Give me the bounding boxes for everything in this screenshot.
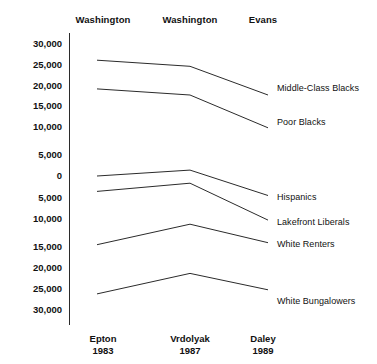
x-tick-daley-name: Daley (250, 333, 275, 344)
series-line-poor-blacks (97, 89, 268, 128)
series-label-white-renters: White Renters (277, 239, 335, 249)
series-lines-group (97, 60, 268, 294)
series-line-middle-class-blacks (97, 60, 268, 95)
x-tick-daley: Daley 1989 (250, 333, 275, 356)
series-label-lakefront-liberals: Lakefront Liberals (277, 217, 349, 227)
x-tick-vrdolyak-year: 1987 (170, 345, 210, 357)
plot-area (0, 0, 377, 364)
series-line-lakefront-liberals (97, 183, 268, 220)
x-tick-epton-year: 1983 (90, 345, 117, 357)
series-label-middle-class-blacks: Middle-Class Blacks (277, 83, 359, 93)
x-tick-vrdolyak: Vrdolyak 1987 (170, 333, 210, 356)
series-line-white-renters (97, 224, 268, 245)
series-line-white-bungalowers (97, 273, 268, 294)
series-label-hispanics: Hispanics (277, 192, 316, 202)
series-line-hispanics (97, 170, 268, 195)
series-label-poor-blacks: Poor Blacks (277, 117, 326, 127)
x-tick-epton: Epton 1983 (90, 333, 117, 356)
x-tick-epton-name: Epton (90, 333, 117, 344)
line-chart-figure: Washington Washington Evans 30,000 25,00… (0, 0, 377, 364)
x-tick-vrdolyak-name: Vrdolyak (170, 333, 210, 344)
series-label-white-bungalowers: White Bungalowers (277, 296, 355, 306)
x-tick-daley-year: 1989 (250, 345, 275, 357)
